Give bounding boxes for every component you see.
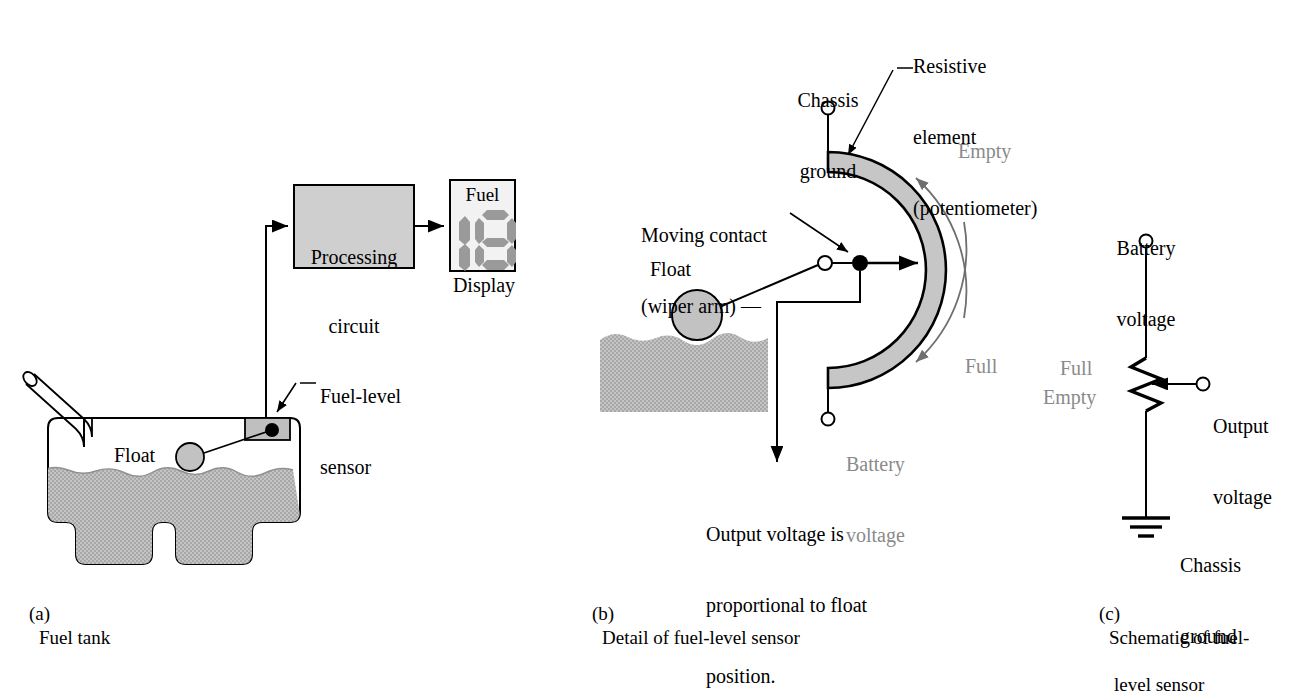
battery-voltage-label-c: Battery voltage	[1084, 190, 1208, 379]
resistive-element-label: Resistive element (potentiometer)	[913, 8, 1037, 268]
float-label-b: Float	[650, 258, 691, 282]
moving-contact-line1: Moving contact	[641, 224, 767, 248]
resistive-element-line1: Resistive	[913, 55, 1037, 79]
fuel-level-sensor-line1: Fuel-level	[320, 385, 401, 409]
output-note-line1: Output voltage is	[706, 523, 867, 547]
full-label-b: Full	[965, 355, 997, 379]
caption-b-text: Detail of fuel-level sensor	[602, 627, 800, 648]
caption-a: (a) Fuel tank	[10, 578, 110, 673]
float-label-a: Float	[114, 444, 155, 468]
display-caption: Display	[440, 274, 528, 298]
display-segment-bottom	[482, 260, 509, 270]
moving-contact-line2: (wiper arm) —	[641, 295, 767, 319]
caption-c: (c) Schematic of fuel- level sensor	[1080, 578, 1249, 695]
caption-b: (b) Detail of fuel-level sensor	[573, 578, 800, 673]
caption-c-line2: level sensor	[1114, 673, 1249, 695]
float-ball	[176, 443, 204, 471]
chassis-ground-c-line1: Chassis	[1180, 554, 1241, 578]
empty-label-c: Empty	[1043, 386, 1096, 410]
wiper-pivot-circle	[818, 256, 832, 270]
display-segment-top	[482, 210, 509, 220]
display-segment-left-upper	[459, 216, 470, 245]
caption-c-marker: (c)	[1099, 603, 1120, 624]
display-segment-upper-right	[507, 218, 516, 244]
processing-circuit-line2: circuit	[294, 315, 414, 338]
fuel-level-sensor-label: Fuel-level sensor	[320, 338, 401, 527]
panel-a-graphics	[21, 180, 516, 580]
wire-sensor-to-processing	[266, 226, 288, 428]
display-title: Fuel	[450, 184, 515, 206]
caption-a-text: Fuel tank	[39, 627, 110, 648]
processing-circuit-line1: Processing	[294, 246, 414, 269]
sensor-label-leader	[277, 383, 316, 412]
battery-voltage-c-line1: Battery	[1084, 237, 1208, 261]
fuel-level-sensor-line2: sensor	[320, 456, 401, 480]
battery-voltage-terminal	[822, 413, 835, 426]
output-voltage-c-line1: Output	[1213, 415, 1272, 439]
chassis-ground-b-line2: ground	[766, 160, 890, 184]
c-output-terminal	[1197, 378, 1210, 391]
battery-voltage-c-line2: voltage	[1084, 308, 1208, 332]
display-segment-left-lower	[459, 244, 470, 271]
chassis-ground-label-b: Chassis ground	[766, 42, 890, 231]
full-label-c: Full	[1060, 357, 1092, 381]
battery-voltage-b-line1: Battery	[846, 453, 905, 477]
filler-neck-opening	[21, 369, 40, 388]
caption-c-line1: Schematic of fuel-	[1109, 627, 1249, 648]
display-segment-upper-left	[475, 218, 484, 244]
caption-a-marker: (a)	[29, 603, 50, 624]
chassis-ground-b-line1: Chassis	[766, 89, 890, 113]
empty-label-b: Empty	[958, 140, 1011, 164]
caption-b-marker: (b)	[592, 603, 614, 624]
display-segment-middle	[482, 238, 509, 247]
resistive-element-line3: (potentiometer)	[913, 197, 1037, 221]
